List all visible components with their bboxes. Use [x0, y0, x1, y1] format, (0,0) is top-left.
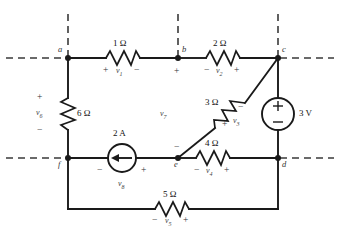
resistor-4ohm-polarity-left: − [194, 166, 199, 176]
voltage-source-3v-value: 3 V [299, 109, 312, 118]
node-label-d: d [282, 160, 286, 169]
junction-dot-a [65, 55, 71, 61]
node-label-b: b [182, 45, 186, 54]
resistor-6ohm-value: 6 Ω [77, 109, 90, 118]
resistor-3ohm-value: 3 Ω [205, 98, 218, 107]
resistor-3ohm-polarity-upper: − [238, 103, 243, 113]
resistor-6ohm-polarity-top: + [37, 93, 42, 103]
resistor-2ohm-zigzag [206, 51, 240, 65]
junction-dot-f [65, 155, 71, 161]
resistor-5ohm-polarity-left: − [152, 216, 157, 226]
resistor-3ohm-voltage-label: v3 [233, 117, 240, 127]
junction-dot-d [275, 155, 281, 161]
dashed-reference-lines [6, 14, 334, 158]
wire-r3-to-c [245, 58, 278, 103]
current-source-2a-voltage-label: v8 [118, 180, 125, 190]
resistor-4ohm-zigzag [196, 151, 230, 165]
resistor-6ohm-voltage-label: v6 [36, 109, 43, 119]
junction-dot-c [275, 55, 281, 61]
node-label-e: e [174, 160, 178, 169]
resistor-4ohm-voltage-label: v4 [206, 167, 213, 177]
resistor-1ohm-zigzag [106, 51, 140, 65]
resistor-5ohm-value: 5 Ω [163, 190, 176, 199]
branch-v7-voltage-label: v7 [160, 110, 167, 120]
resistor-2ohm-value: 2 Ω [213, 39, 226, 48]
resistor-5ohm-polarity-right: + [183, 216, 188, 226]
resistor-1ohm-voltage-label: v1 [116, 67, 123, 77]
node-label-c: c [282, 45, 286, 54]
branch-v7-polarity-bottom: − [174, 143, 179, 153]
resistor-6ohm-polarity-bottom: − [37, 126, 42, 136]
node-label-f: f [58, 160, 60, 169]
resistor-1ohm-value: 1 Ω [113, 39, 126, 48]
voltage-source-3v-symbol [262, 98, 294, 130]
circuit-wires [68, 58, 278, 209]
branch-v7-polarity-top: + [174, 67, 179, 77]
resistor-1ohm-polarity-right: − [134, 66, 139, 76]
resistor-4ohm-polarity-right: + [224, 166, 229, 176]
junction-dots [65, 55, 281, 161]
circuit-diagram-figure: a b c d e f 1 Ω + v1 − 2 Ω − v2 + 3 Ω − … [0, 0, 340, 233]
current-source-2a-symbol [108, 144, 136, 172]
resistor-1ohm-polarity-left: + [103, 66, 108, 76]
resistor-2ohm-voltage-label: v2 [216, 67, 223, 77]
resistor-6ohm-zigzag [61, 98, 75, 130]
node-label-a: a [58, 45, 62, 54]
resistor-5ohm-zigzag [155, 202, 189, 216]
resistor-2ohm-polarity-right: + [234, 66, 239, 76]
junction-dot-b [175, 55, 181, 61]
current-source-2a-polarity-left: − [97, 166, 102, 176]
resistor-3ohm-polarity-lower: + [222, 120, 227, 130]
current-source-2a-polarity-right: + [141, 166, 146, 176]
resistor-4ohm-value: 4 Ω [205, 139, 218, 148]
current-source-2a-value: 2 A [113, 129, 126, 138]
resistor-5ohm-voltage-label: v5 [165, 217, 172, 227]
resistor-2ohm-polarity-left: − [204, 66, 209, 76]
